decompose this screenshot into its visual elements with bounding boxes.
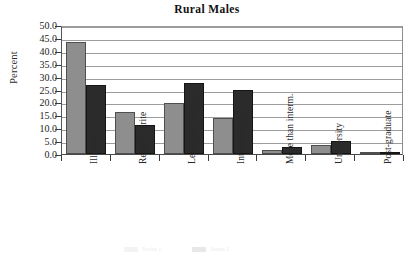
gridline (62, 92, 402, 93)
y-axis-tick-label: 50.0 (13, 21, 57, 31)
x-axis-tick-mark (208, 155, 209, 161)
gridline (62, 104, 402, 105)
y-axis-tick-label: 0.0 (13, 150, 57, 160)
y-axis-tick-label: 15.0 (13, 111, 57, 121)
y-axis-tick-label: 20.0 (13, 98, 57, 108)
bar (311, 145, 331, 154)
legend-label-series-2: Series 2 (210, 246, 229, 252)
gridline (62, 27, 402, 28)
gridline (62, 66, 402, 67)
bar (115, 112, 135, 154)
legend: Series 1 Series 2 (120, 246, 300, 253)
x-axis-tick-mark (159, 155, 160, 161)
x-axis-category-label: University (334, 123, 344, 164)
chart-figure: Rural Males Percent 50.045.040.035.030.0… (0, 0, 414, 253)
x-axis-category-label: More than interm. (285, 93, 295, 164)
plot-area (61, 26, 403, 155)
x-axis-category-label: Read & write (138, 112, 148, 164)
y-axis-tick-label: 45.0 (13, 34, 57, 44)
x-axis-tick-mark (354, 155, 355, 161)
x-axis-category-label: Post-graduate (383, 110, 393, 164)
x-axis-tick-mark (110, 155, 111, 161)
bar (164, 103, 184, 154)
bar (66, 42, 86, 154)
x-axis-tick-mark (256, 155, 257, 161)
x-axis-tick-mark (61, 155, 62, 161)
gridline (62, 53, 402, 54)
y-axis-tick-label: 40.0 (13, 47, 57, 57)
legend-swatch-series-1 (124, 247, 138, 252)
y-axis-tick-label: 25.0 (13, 86, 57, 96)
y-axis-tick-label: 10.0 (13, 124, 57, 134)
y-axis-tick-label: 35.0 (13, 60, 57, 70)
legend-label-series-1: Series 1 (142, 246, 161, 252)
legend-swatch-series-2 (192, 247, 206, 252)
gridline (62, 40, 402, 41)
x-axis-tick-mark (403, 155, 404, 161)
x-axis-category-label: Intermediate (236, 115, 246, 164)
chart-title: Rural Males (0, 3, 414, 15)
x-axis-tick-mark (305, 155, 306, 161)
bar (360, 152, 380, 154)
gridline (62, 79, 402, 80)
x-axis-category-label: Less than interm. (187, 97, 197, 164)
bar (262, 150, 282, 154)
y-axis-tick-label: 30.0 (13, 73, 57, 83)
y-axis-tick-label: 5.0 (13, 137, 57, 147)
bar (213, 118, 233, 154)
x-axis-category-label: Illiterate (89, 131, 99, 164)
